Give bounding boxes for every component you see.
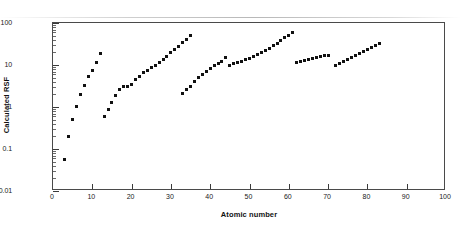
x-tick-label: 30: [166, 193, 174, 200]
page-top-rule: [0, 17, 461, 18]
y-tick-minor: [53, 40, 56, 41]
y-tick-minor: [53, 69, 56, 70]
y-tick-minor: [53, 114, 56, 115]
data-point: [162, 58, 165, 61]
data-point: [99, 52, 102, 55]
data-point: [126, 85, 129, 88]
data-point: [71, 118, 74, 121]
data-point: [103, 115, 106, 118]
data-point: [173, 48, 176, 51]
data-point: [315, 56, 318, 59]
y-tick-minor: [53, 67, 56, 68]
data-point: [134, 78, 137, 81]
data-point: [130, 83, 133, 86]
x-axis-title: Atomic number: [221, 210, 277, 219]
x-tick: [171, 184, 172, 189]
y-tick-major: [53, 107, 59, 108]
data-point: [334, 64, 337, 67]
x-tick: [367, 184, 368, 189]
data-point: [158, 61, 161, 64]
x-tick: [250, 184, 251, 189]
data-point: [169, 51, 172, 54]
y-tick-label: 1: [8, 103, 12, 110]
x-tick: [328, 184, 329, 189]
y-tick-major: [53, 149, 59, 150]
x-tick-label: 50: [245, 193, 253, 200]
data-point: [87, 75, 90, 78]
data-point: [323, 54, 326, 57]
y-tick-minor: [53, 72, 56, 73]
data-point: [110, 101, 113, 104]
y-tick-minor: [53, 162, 56, 163]
data-point: [224, 56, 227, 59]
data-point: [197, 76, 200, 79]
y-tick-minor: [53, 166, 56, 167]
y-tick-major: [53, 65, 59, 66]
data-point: [150, 66, 153, 69]
data-point: [295, 61, 298, 64]
data-point: [209, 67, 212, 70]
data-point: [264, 49, 267, 52]
x-tick-label: 40: [205, 193, 213, 200]
y-tick-minor: [53, 74, 56, 75]
data-point: [213, 64, 216, 67]
data-point: [217, 62, 220, 65]
y-tick-minor: [53, 82, 56, 83]
y-tick-minor: [53, 171, 56, 172]
plot-area: [52, 22, 445, 190]
y-tick-label: 0.1: [3, 145, 12, 152]
data-point: [256, 53, 259, 56]
y-tick-minor: [53, 25, 56, 26]
data-point: [189, 85, 192, 88]
x-tick-label: 70: [323, 193, 331, 200]
data-point: [276, 42, 279, 45]
y-tick-major: [53, 23, 59, 24]
data-point: [346, 58, 349, 61]
x-tick: [210, 184, 211, 189]
data-point: [201, 73, 204, 76]
y-tick-minor: [53, 136, 56, 137]
data-point: [95, 61, 98, 64]
data-point: [185, 38, 188, 41]
y-tick-minor: [53, 45, 56, 46]
y-tick-major: [53, 191, 59, 192]
y-tick-minor: [53, 30, 56, 31]
data-point: [244, 58, 247, 61]
data-point: [107, 108, 110, 111]
data-point: [67, 135, 70, 138]
data-point: [177, 45, 180, 48]
data-point: [232, 62, 235, 65]
data-point: [181, 41, 184, 44]
x-tick-label: 0: [50, 193, 54, 200]
data-point: [185, 88, 188, 91]
data-point: [327, 54, 330, 57]
data-point: [79, 93, 82, 96]
data-point: [354, 54, 357, 57]
y-tick-label: 100: [1, 19, 12, 26]
chart-figure: Calculated RSF Atomic number 0.010.11101…: [0, 0, 461, 230]
data-point: [181, 92, 184, 95]
data-point: [378, 42, 381, 45]
x-tick-label: 20: [127, 193, 135, 200]
data-point: [299, 60, 302, 63]
x-tick-label: 10: [87, 193, 95, 200]
data-point: [248, 57, 251, 60]
y-tick-minor: [53, 129, 56, 130]
x-tick: [92, 184, 93, 189]
data-point: [319, 55, 322, 58]
y-tick-minor: [53, 111, 56, 112]
data-point: [220, 60, 223, 63]
data-point: [189, 34, 192, 37]
data-point: [252, 55, 255, 58]
data-point: [91, 69, 94, 72]
data-point: [338, 62, 341, 65]
data-point: [362, 50, 365, 53]
data-point: [236, 61, 239, 64]
y-tick-minor: [53, 36, 56, 37]
data-point: [165, 55, 168, 58]
data-point: [142, 71, 145, 74]
data-point: [114, 94, 117, 97]
data-point: [138, 75, 141, 78]
data-point: [366, 48, 369, 51]
x-tick: [289, 184, 290, 189]
